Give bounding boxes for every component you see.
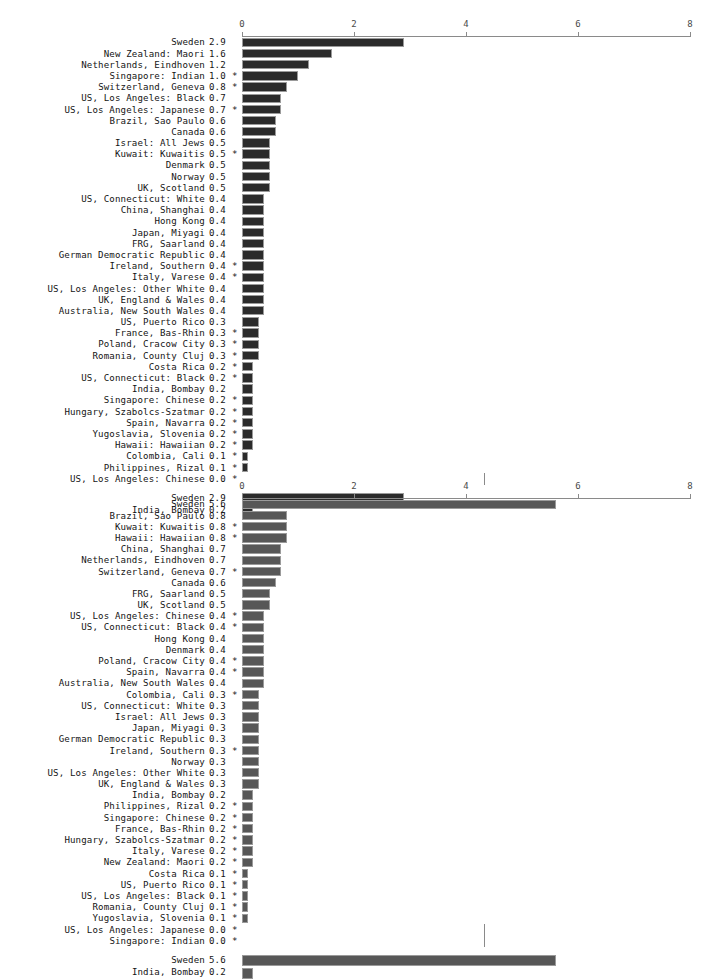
bar-track	[242, 633, 690, 644]
x-axis-tick-label: 2	[351, 20, 356, 29]
chart-row: Ireland, Southern0.3*	[0, 745, 706, 756]
row-label: Hawaii: Hawaiian	[115, 440, 205, 450]
data-bar	[242, 418, 253, 427]
row-label: China, Shanghai	[121, 205, 205, 215]
row-flag-asterisk: *	[232, 835, 237, 845]
data-bar	[242, 183, 270, 192]
row-label: Sweden	[171, 37, 205, 47]
row-label: Australia, New South Wales	[59, 678, 205, 688]
chart-row: New Zealand: Maori1.6	[0, 48, 706, 59]
row-label: Japan, Miyagi	[132, 723, 205, 733]
bar-track	[242, 384, 690, 395]
row-label: Japan, Miyagi	[132, 228, 205, 238]
chart-row: Poland, Cracow City0.3*	[0, 339, 706, 350]
chart-row: Hong Kong0.4	[0, 633, 706, 644]
row-label: Philippines, Rizal	[104, 801, 205, 811]
row-label: US, Connecticut: White	[81, 194, 205, 204]
row-value: 0.5	[209, 600, 226, 610]
row-label: Yugoslavia, Slovenia	[93, 913, 206, 923]
row-value: 0.1	[209, 902, 226, 912]
bar-track	[242, 835, 690, 846]
chart-row: Brazil, Sao Paulo0.8	[0, 510, 706, 521]
data-bar	[242, 623, 264, 632]
row-label: Colombia, Cali	[126, 690, 205, 700]
row-label: UK, Scotland	[138, 600, 206, 610]
data-bar	[242, 667, 264, 676]
bar-track	[242, 406, 690, 417]
bar-track	[242, 967, 690, 980]
row-flag-asterisk: *	[232, 328, 237, 338]
data-bar	[242, 396, 253, 405]
row-value: 0.1	[209, 880, 226, 890]
chart-row: UK, Scotland0.5	[0, 182, 706, 193]
data-bar	[242, 94, 281, 103]
bar-track	[242, 171, 690, 182]
chart-row: Kuwait: Kuwaitis0.8*	[0, 521, 706, 532]
data-bar	[242, 880, 248, 889]
chart-row: UK, England & Wales0.3	[0, 779, 706, 790]
bar-track	[242, 521, 690, 532]
row-flag-asterisk: *	[232, 261, 237, 271]
row-label: US, Los Angeles: Black	[81, 891, 205, 901]
bar-track	[242, 339, 690, 350]
data-bar	[242, 161, 270, 170]
bar-track	[242, 734, 690, 745]
data-bar	[242, 273, 264, 282]
row-flag-asterisk: *	[232, 746, 237, 756]
bar-track	[242, 361, 690, 372]
row-label: Australia, New South Wales	[59, 306, 205, 316]
bar-track	[242, 93, 690, 104]
row-label: Hong Kong	[154, 634, 205, 644]
row-value: 0.8	[209, 533, 226, 543]
row-label: Canada	[171, 578, 205, 588]
data-bar	[242, 71, 298, 80]
bar-track	[242, 756, 690, 767]
chart-row: Denmark0.4	[0, 644, 706, 655]
chart-row: German Democratic Republic0.3	[0, 734, 706, 745]
row-flag-asterisk: *	[232, 533, 237, 543]
bar-track	[242, 272, 690, 283]
row-label: France, Bas-Rhin	[115, 824, 205, 834]
data-bar	[242, 802, 253, 811]
row-value: 0.3	[209, 734, 226, 744]
row-flag-asterisk: *	[232, 880, 237, 890]
row-label: Ireland, Southern	[109, 746, 205, 756]
summary-row: Sweden5.6	[0, 955, 706, 968]
data-bar	[242, 567, 281, 576]
data-bar	[242, 138, 270, 147]
row-flag-asterisk: *	[232, 801, 237, 811]
data-bar	[242, 340, 259, 349]
row-value: 0.1	[209, 463, 226, 473]
row-label: Singapore: Indian	[109, 71, 205, 81]
row-value: 0.5	[209, 589, 226, 599]
bar-track	[242, 417, 690, 428]
axis-stub	[484, 924, 485, 935]
bar-track	[242, 857, 690, 868]
chart-row: Colombia, Cali0.1*	[0, 451, 706, 462]
chart-row: Brazil, Sao Paulo0.6	[0, 115, 706, 126]
bar-track	[242, 440, 690, 451]
row-flag-asterisk: *	[232, 105, 237, 115]
chart-row: US, Los Angeles: Black0.7	[0, 93, 706, 104]
row-value: 0.4	[209, 667, 226, 677]
chart-row: Hawaii: Hawaiian0.2*	[0, 440, 706, 451]
chart-row: Spain, Navarra0.2*	[0, 417, 706, 428]
bar-track	[242, 935, 690, 946]
row-label: German Democratic Republic	[59, 250, 205, 260]
row-value: 0.2	[209, 418, 226, 428]
row-flag-asterisk: *	[232, 339, 237, 349]
bar-track	[242, 71, 690, 82]
row-label: Hungary, Szabolcs-Szatmar	[64, 407, 205, 417]
row-value: 0.4	[209, 194, 226, 204]
chart-row: US, Connecticut: White0.3	[0, 700, 706, 711]
chart-rows: Sweden2.9New Zealand: Maori1.6Netherland…	[0, 37, 706, 518]
bar-track	[242, 879, 690, 890]
chart-row: Netherlands, Eindhoven1.2	[0, 59, 706, 70]
bar-track	[242, 127, 690, 138]
chart-row: Singapore: Chinese0.2*	[0, 395, 706, 406]
row-value: 0.6	[209, 578, 226, 588]
data-bar	[242, 955, 556, 966]
bar-track	[242, 238, 690, 249]
data-bar	[242, 779, 259, 788]
row-label: India, Bombay	[132, 967, 205, 977]
